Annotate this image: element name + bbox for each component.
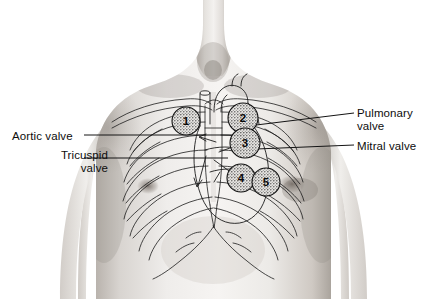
label-mitral-valve: Mitral valve bbox=[357, 140, 416, 153]
label-tricuspid-valve: Tricuspid valve bbox=[12, 149, 108, 174]
label-pulmonary-valve-line1: Pulmonary bbox=[357, 107, 413, 120]
site-number-5: 5 bbox=[263, 176, 270, 188]
label-mitral-valve-line1: Mitral valve bbox=[357, 140, 416, 153]
label-tricuspid-valve-line1: Tricuspid bbox=[12, 149, 108, 162]
auscultation-site-3: 3 bbox=[230, 128, 260, 158]
site-number-3: 3 bbox=[242, 137, 248, 149]
label-pulmonary-valve: Pulmonary valve bbox=[357, 107, 413, 132]
auscultation-site-5: 5 bbox=[252, 168, 280, 196]
label-aortic-valve-line1: Aortic valve bbox=[12, 130, 73, 143]
site-number-2: 2 bbox=[240, 112, 246, 124]
label-tricuspid-valve-line2: valve bbox=[12, 162, 108, 175]
site-number-1: 1 bbox=[183, 115, 190, 127]
auscultation-site-4: 4 bbox=[227, 164, 255, 192]
label-pulmonary-valve-line2: valve bbox=[357, 120, 413, 133]
auscultation-site-1: 1 bbox=[172, 107, 200, 135]
site-number-4: 4 bbox=[238, 172, 245, 184]
label-aortic-valve: Aortic valve bbox=[12, 130, 73, 143]
